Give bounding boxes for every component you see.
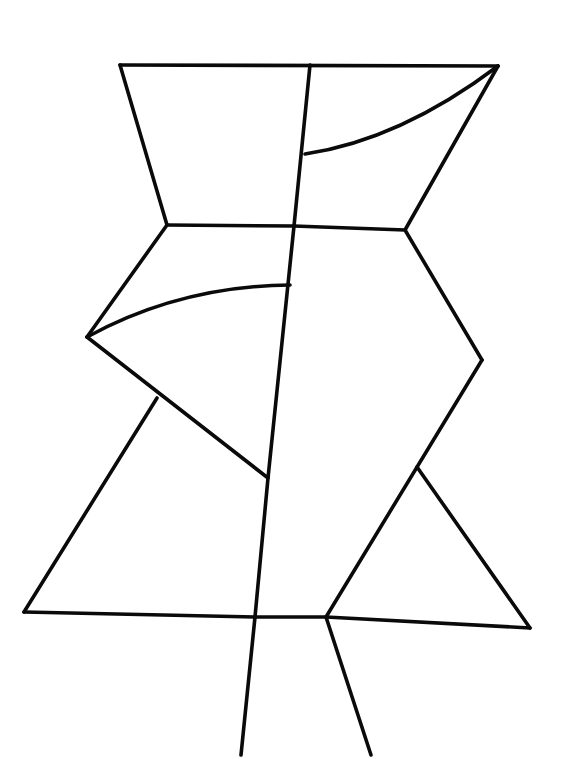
abstract-line-drawing bbox=[0, 0, 579, 759]
paper-background bbox=[0, 0, 579, 759]
line-drawing-canvas bbox=[0, 0, 579, 759]
